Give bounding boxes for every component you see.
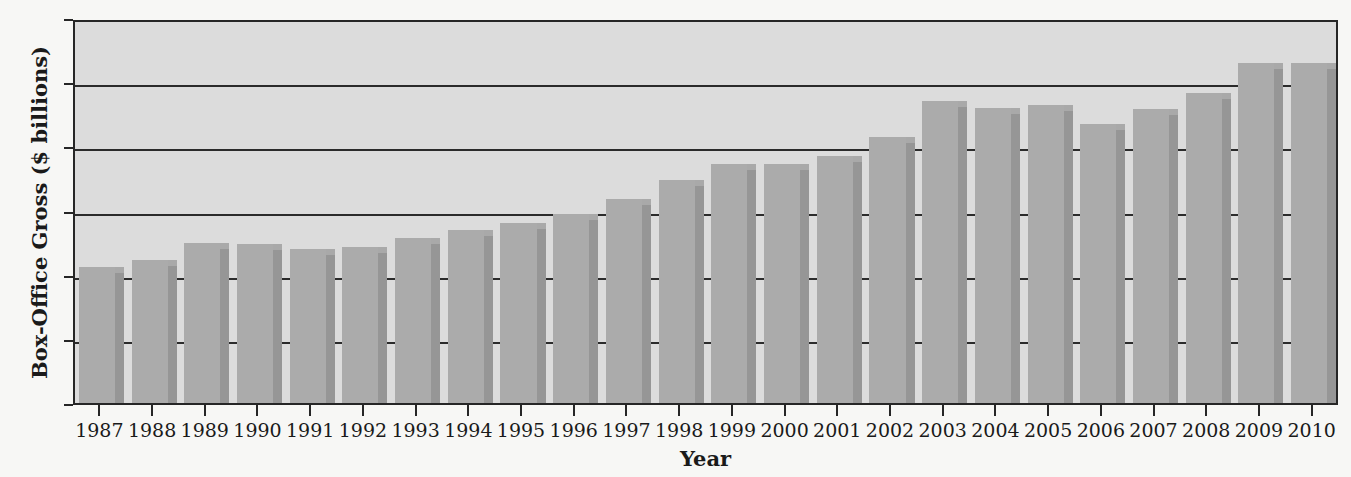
- x-tick-label-1991: 1991: [286, 419, 334, 441]
- bar-face: [1186, 93, 1222, 403]
- x-tick-mark-2005: [1047, 405, 1049, 416]
- x-tick-label-2001: 2001: [813, 419, 861, 441]
- x-tick-mark-2009: [1258, 405, 1260, 416]
- bar-2003: [922, 101, 967, 403]
- bar-1996: [553, 214, 598, 403]
- bar-chart: Box-Office Gross ($ billions) 024681012 …: [0, 0, 1351, 477]
- x-tick-mark-2006: [1100, 405, 1102, 416]
- x-tick-label-1999: 1999: [708, 419, 756, 441]
- x-tick-label-2000: 2000: [760, 419, 808, 441]
- x-tick-mark-2007: [1153, 405, 1155, 416]
- bar-shadow: [431, 244, 440, 403]
- bar-face: [553, 214, 589, 403]
- x-tick-label-1996: 1996: [550, 419, 598, 441]
- bar-shadow: [642, 205, 651, 403]
- y-tick-mark-10: [64, 83, 73, 85]
- x-tick-label-1987: 1987: [75, 419, 123, 441]
- bar-shadow: [220, 249, 229, 403]
- bar-shadow: [589, 220, 598, 403]
- bar-shadow: [1274, 69, 1283, 403]
- bar-1991: [290, 249, 335, 403]
- x-tick-mark-2002: [889, 405, 891, 416]
- bar-shadow: [484, 236, 493, 403]
- x-tick-mark-1997: [625, 405, 627, 416]
- x-tick-mark-1995: [520, 405, 522, 416]
- x-tick-label-2009: 2009: [1235, 419, 1283, 441]
- y-tick-mark-4: [64, 276, 73, 278]
- y-axis-title: Box-Office Gross ($ billions): [26, 20, 52, 405]
- x-tick-mark-2001: [836, 405, 838, 416]
- bar-shadow: [1064, 111, 1073, 403]
- bar-face: [448, 230, 484, 403]
- bar-face: [79, 267, 115, 403]
- bar-1997: [606, 199, 651, 403]
- bar-shadow: [695, 186, 704, 403]
- bar-shadow: [906, 143, 915, 403]
- x-tick-mark-2010: [1311, 405, 1313, 416]
- bar-face: [1133, 109, 1169, 403]
- x-tick-mark-2004: [994, 405, 996, 416]
- bar-face: [922, 101, 958, 403]
- bar-face: [975, 108, 1011, 403]
- bar-1987: [79, 267, 124, 403]
- x-tick-mark-1992: [362, 405, 364, 416]
- x-tick-mark-2008: [1205, 405, 1207, 416]
- bar-2001: [817, 156, 862, 403]
- y-tick-mark-8: [64, 147, 73, 149]
- bar-1994: [448, 230, 493, 403]
- bar-face: [342, 247, 378, 403]
- x-tick-label-2005: 2005: [1024, 419, 1072, 441]
- plot-inner: [75, 22, 1336, 403]
- y-tick-mark-0: [64, 404, 73, 406]
- x-tick-mark-1990: [256, 405, 258, 416]
- x-tick-label-1995: 1995: [497, 419, 545, 441]
- x-tick-mark-1989: [204, 405, 206, 416]
- bar-face: [290, 249, 326, 403]
- x-axis-title: Year: [73, 446, 1338, 471]
- x-tick-mark-1998: [678, 405, 680, 416]
- bar-shadow: [326, 255, 335, 403]
- bar-1998: [659, 180, 704, 403]
- bar-face: [659, 180, 695, 403]
- bar-shadow: [958, 107, 967, 403]
- bar-face: [500, 223, 536, 403]
- x-tick-label-1989: 1989: [181, 419, 229, 441]
- bar-2010: [1291, 63, 1336, 403]
- bar-shadow: [1116, 130, 1125, 403]
- bar-2004: [975, 108, 1020, 403]
- bar-1990: [237, 244, 282, 403]
- bar-2005: [1028, 105, 1073, 403]
- bar-face: [606, 199, 642, 403]
- x-tick-label-2002: 2002: [866, 419, 914, 441]
- bar-face: [237, 244, 273, 403]
- x-tick-label-2004: 2004: [971, 419, 1019, 441]
- bar-face: [1238, 63, 1274, 403]
- bar-shadow: [537, 229, 546, 403]
- x-tick-mark-1994: [467, 405, 469, 416]
- plot-area: [73, 20, 1338, 405]
- bar-2002: [869, 137, 914, 403]
- bar-face: [1028, 105, 1064, 403]
- x-tick-label-1997: 1997: [602, 419, 650, 441]
- bar-shadow: [1169, 115, 1178, 403]
- bar-face: [869, 137, 905, 403]
- bar-shadow: [1327, 69, 1336, 403]
- y-tick-mark-2: [64, 340, 73, 342]
- x-tick-label-1988: 1988: [128, 419, 176, 441]
- bar-shadow: [115, 273, 124, 403]
- bar-1995: [500, 223, 545, 403]
- bar-1988: [132, 260, 177, 403]
- x-tick-mark-1991: [309, 405, 311, 416]
- bar-shadow: [800, 170, 809, 403]
- bar-face: [817, 156, 853, 403]
- x-tick-mark-2003: [942, 405, 944, 416]
- bar-face: [395, 238, 431, 403]
- x-tick-mark-1993: [415, 405, 417, 416]
- bar-face: [1291, 63, 1327, 403]
- x-tick-mark-1987: [98, 405, 100, 416]
- x-tick-label-2006: 2006: [1077, 419, 1125, 441]
- y-tick-mark-12: [64, 19, 73, 21]
- bar-1999: [711, 164, 756, 403]
- bar-shadow: [1222, 99, 1231, 403]
- x-tick-label-1994: 1994: [444, 419, 492, 441]
